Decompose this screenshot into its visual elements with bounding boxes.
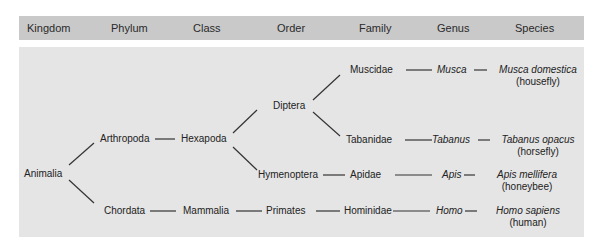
- node-phylum-chordata: Chordata: [104, 205, 145, 217]
- species-common-name: (honeybee): [477, 181, 577, 193]
- node-order-hymenoptera: Hymenoptera: [258, 169, 318, 181]
- node-family-hominidae: Hominidae: [344, 205, 392, 217]
- species-name: Musca domestica: [488, 64, 588, 76]
- species-common-name: (horsefly): [488, 146, 588, 158]
- species-name: Homo sapiens: [478, 205, 578, 217]
- node-class-mammalia: Mammalia: [183, 205, 229, 217]
- node-phylum-arthropoda: Arthropoda: [100, 133, 149, 145]
- node-family-tabanidae: Tabanidae: [346, 134, 392, 146]
- node-species-musca-domestica: Musca domestica (housefly): [488, 64, 588, 88]
- node-species-apis-mellifera: Apis mellifera (honeybee): [477, 169, 577, 193]
- node-order-diptera: Diptera: [273, 100, 305, 112]
- species-name: Apis mellifera: [477, 169, 577, 181]
- node-genus-tabanus: Tabanus: [432, 134, 470, 146]
- node-genus-apis: Apis: [442, 169, 461, 181]
- node-species-tabanus-opacus: Tabanus opacus (horsefly): [488, 134, 588, 158]
- node-class-hexapoda: Hexapoda: [181, 133, 227, 145]
- species-common-name: (housefly): [488, 76, 588, 88]
- node-genus-homo: Homo: [436, 205, 463, 217]
- node-genus-musca: Musca: [437, 64, 466, 76]
- node-kingdom-animalia: Animalia: [24, 168, 62, 180]
- node-family-muscidae: Muscidae: [350, 64, 393, 76]
- species-name: Tabanus opacus: [488, 134, 588, 146]
- node-family-apidae: Apidae: [350, 169, 381, 181]
- node-species-homo-sapiens: Homo sapiens (human): [478, 205, 578, 229]
- node-order-primates: Primates: [266, 205, 305, 217]
- species-common-name: (human): [478, 217, 578, 229]
